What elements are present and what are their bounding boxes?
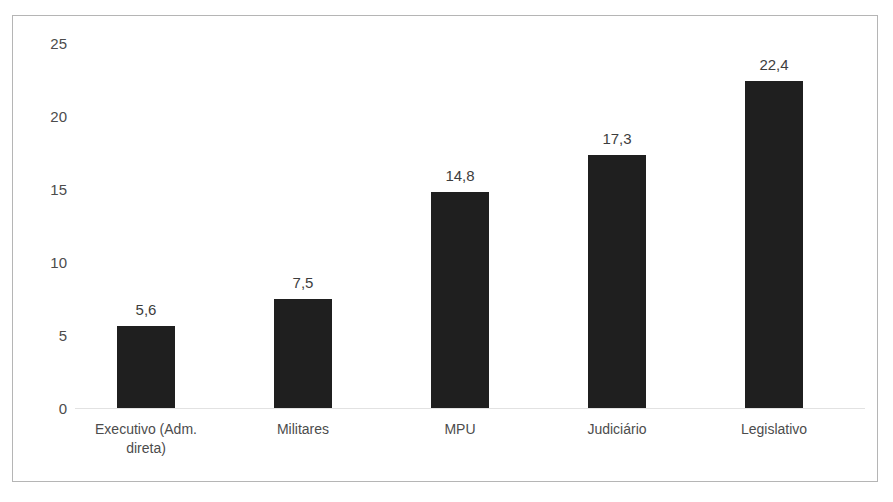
bar [745, 81, 803, 408]
x-axis-category-label-line: Executivo (Adm. [71, 420, 221, 439]
y-axis-tick-label: 25 [21, 36, 67, 51]
plot-area: 25 20 15 10 5 0 5,6 7,5 14,8 17,3 22,4 E… [13, 16, 879, 483]
bar-value-label: 17,3 [572, 131, 662, 146]
bar [274, 299, 332, 409]
y-axis-tick-label: 20 [21, 109, 67, 124]
category-axis-line [75, 408, 865, 409]
x-axis-category-label-line: Legislativo [699, 420, 849, 439]
y-axis-tick-label: 10 [21, 255, 67, 270]
bar-value-label: 14,8 [415, 168, 505, 183]
x-axis-category-label-line: direta) [71, 439, 221, 458]
y-axis-tick-label: 0 [21, 401, 67, 416]
x-axis-category-label: Judiciário [542, 420, 692, 439]
x-axis-category-label: Legislativo [699, 420, 849, 439]
chart-frame: 25 20 15 10 5 0 5,6 7,5 14,8 17,3 22,4 E… [12, 15, 878, 482]
x-axis-category-label: MPU [385, 420, 535, 439]
y-axis-tick-label: 5 [21, 328, 67, 343]
x-axis-category-label-line: Militares [228, 420, 378, 439]
y-axis-tick-label: 15 [21, 182, 67, 197]
chart-container: 25 20 15 10 5 0 5,6 7,5 14,8 17,3 22,4 E… [0, 0, 893, 502]
bar [117, 326, 175, 408]
x-axis-category-label-line: Judiciário [542, 420, 692, 439]
x-axis-category-label: Executivo (Adm.direta) [71, 420, 221, 458]
bar-value-label: 22,4 [729, 57, 819, 72]
bar [588, 155, 646, 408]
bar-value-label: 5,6 [101, 302, 191, 317]
x-axis-category-label: Militares [228, 420, 378, 439]
bar [431, 192, 489, 408]
x-axis-category-label-line: MPU [385, 420, 535, 439]
bar-value-label: 7,5 [258, 275, 348, 290]
